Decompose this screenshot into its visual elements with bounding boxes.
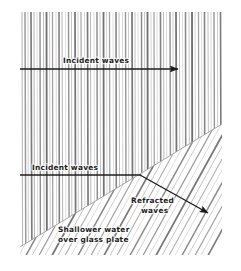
wave-refraction-figure: Incident waves Incident waves Incident w… <box>0 0 241 271</box>
caption-line2: over glass plate <box>58 235 129 244</box>
caption-line1: Shallower water <box>58 225 130 234</box>
diagram-canvas: Incident waves Incident waves Incident w… <box>0 0 241 271</box>
refracted-label-line2: waves <box>141 206 169 215</box>
incident-lower-label: Incident waves <box>32 163 98 172</box>
refracted-label-line1: Refracted <box>131 196 174 205</box>
caption-shallower-water: Shallower water Shallower water over gla… <box>58 225 130 244</box>
label-incident-top: Incident waves Incident waves <box>63 56 129 65</box>
label-incident-lower: Incident waves Incident waves <box>32 163 98 172</box>
incident-top-label: Incident waves <box>63 56 129 65</box>
